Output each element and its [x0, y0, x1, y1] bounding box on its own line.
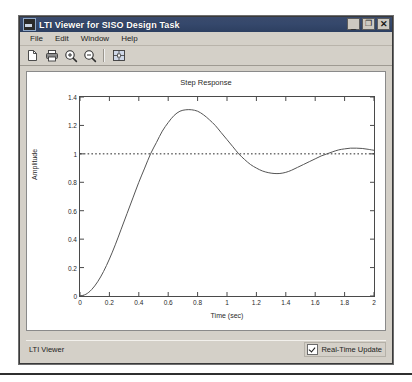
grid-fit-icon[interactable] [110, 48, 127, 64]
maximize-button[interactable]: ❐ [362, 18, 375, 30]
status-text: LTI Viewer [26, 345, 64, 354]
step-response-curve [80, 110, 374, 296]
screenshot-root: LTI Viewer for SISO Design Task _ ❐ ✕ Fi… [0, 0, 412, 382]
x-tick-label: 0.6 [164, 299, 173, 306]
y-tick-label: 1.4 [68, 94, 77, 101]
plot-area[interactable]: 00.20.40.60.811.21.4 00.20.40.60.811.21.… [79, 96, 375, 297]
x-tick-label: 1.6 [311, 299, 320, 306]
zoom-in-icon[interactable] [62, 48, 79, 64]
window-controls: _ ❐ ✕ [347, 18, 390, 30]
toolbar-separator [103, 49, 105, 62]
zoom-out-icon[interactable] [81, 48, 98, 64]
y-tick-label: 0.6 [68, 207, 77, 214]
toolbar [20, 46, 392, 66]
chart-panel[interactable]: Step Response Amplitude Time (sec) 00.20… [26, 71, 386, 331]
y-tick-label: 1 [73, 150, 77, 157]
x-tick-label: 1.8 [340, 299, 349, 306]
page-bottom-rule [0, 373, 412, 375]
real-time-update-label: Real-Time Update [321, 345, 382, 354]
menu-item-edit[interactable]: Edit [49, 32, 75, 45]
y-tick-label: 0.2 [68, 264, 77, 271]
plot-svg [80, 97, 374, 296]
x-tick-label: 0.8 [193, 299, 202, 306]
print-icon[interactable] [43, 48, 60, 64]
x-tick-label: 0 [78, 299, 82, 306]
x-tick-label: 1.2 [252, 299, 261, 306]
x-tick-label: 0.4 [134, 299, 143, 306]
close-icon: ✕ [378, 19, 389, 29]
x-tick-label: 2 [372, 299, 376, 306]
tick-marks [80, 97, 374, 296]
menu-item-file[interactable]: File [24, 32, 49, 45]
chart-title: Step Response [27, 78, 385, 87]
window-title: LTI Viewer for SISO Design Task [39, 20, 180, 30]
menu-bar: File Edit Window Help [20, 32, 392, 46]
title-bar[interactable]: LTI Viewer for SISO Design Task _ ❐ ✕ [20, 17, 392, 32]
x-axis-label: Time (sec) [79, 312, 375, 319]
y-tick-label: 0.4 [68, 236, 77, 243]
x-tick-label: 1.4 [281, 299, 290, 306]
close-button[interactable]: ✕ [377, 18, 390, 30]
minimize-icon: _ [348, 20, 359, 30]
real-time-update-control[interactable]: Real-Time Update [304, 342, 386, 357]
real-time-update-checkbox[interactable] [307, 344, 318, 355]
y-tick-label: 0 [73, 293, 77, 300]
x-tick-label: 0.2 [105, 299, 114, 306]
x-tick-label: 1 [225, 299, 229, 306]
lti-viewer-window: LTI Viewer for SISO Design Task _ ❐ ✕ Fi… [19, 16, 393, 364]
maximize-icon: ❐ [363, 19, 374, 29]
minimize-button[interactable]: _ [347, 18, 360, 30]
menu-item-window[interactable]: Window [75, 32, 115, 45]
new-page-icon[interactable] [24, 48, 41, 64]
y-tick-label: 1.2 [68, 122, 77, 129]
menu-item-help[interactable]: Help [115, 32, 143, 45]
y-axis-label: Amplitude [31, 149, 38, 180]
app-icon [23, 18, 36, 31]
y-tick-label: 0.8 [68, 179, 77, 186]
status-bar: LTI Viewer Real-Time Update [26, 340, 386, 358]
